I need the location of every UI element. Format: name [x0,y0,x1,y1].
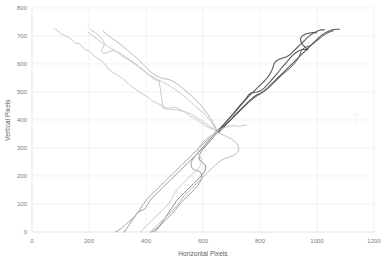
y-tick-label: 600 [17,61,28,67]
x-tick-label: 1200 [367,238,381,244]
chart-container: 020040060080010001200 010020030040050060… [0,0,387,261]
y-tick-label: 700 [17,33,28,39]
data-trace [217,33,316,132]
x-axis-tick-labels: 020040060080010001200 [30,238,381,244]
x-tick-label: 800 [255,238,266,244]
y-tick-label: 500 [17,89,28,95]
data-trace [91,30,218,131]
y-tick-label: 800 [17,5,28,11]
data-trace [218,29,339,132]
data-trace [88,32,217,131]
x-axis-title: Horizontal Pixels [178,250,227,257]
x-tick-label: 600 [198,238,209,244]
x-tick-label: 1000 [310,238,324,244]
data-trace [218,31,333,133]
y-tick-label: 400 [17,117,28,123]
gridlines [32,8,374,232]
x-tick-label: 400 [141,238,152,244]
x-tick-label: 200 [84,238,95,244]
y-axis-tick-labels: 0100200300400500600700800 [17,5,28,235]
y-tick-label: 200 [17,173,28,179]
data-trace [55,29,217,131]
scatter-line-chart: 020040060080010001200 010020030040050060… [0,0,387,261]
y-tick-label: 100 [17,201,28,207]
y-tick-label: 0 [24,229,28,235]
x-tick-label: 0 [30,238,34,244]
y-axis-title: Vertical Pixels [4,99,11,140]
y-tick-label: 300 [17,145,28,151]
data-traces [55,29,339,232]
